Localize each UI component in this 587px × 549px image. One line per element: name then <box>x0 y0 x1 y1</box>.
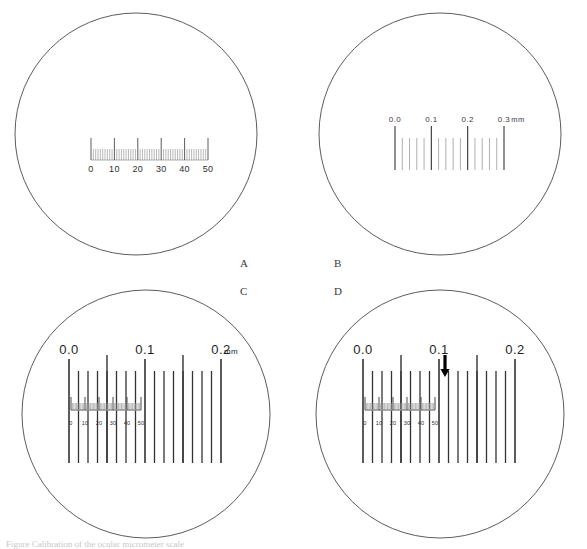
ocular-tick-label: 30 <box>404 420 411 426</box>
stage-tick-label: 0.1 <box>429 342 449 357</box>
stage-tick-label: 0.2 <box>462 115 474 124</box>
field-of-view-circle <box>319 13 561 255</box>
ocular-tick-label: 30 <box>110 420 117 426</box>
ocular-tick-label: 50 <box>138 420 145 426</box>
ocular-tick-label: 0 <box>69 420 72 426</box>
stage-tick-label: 0.0 <box>389 115 401 124</box>
stage-unit-label: mm <box>224 347 238 356</box>
ocular-tick-label: 0 <box>88 164 93 174</box>
ocular-tick-label: 10 <box>376 420 383 426</box>
ocular-tick-label: 10 <box>109 164 120 174</box>
ocular-micrometer-scale: 01020304050 <box>88 138 213 174</box>
figure-root: 010203040500.00.10.20.3mm0.00.10.2mm0102… <box>0 0 587 549</box>
stage-tick-label: 0.0 <box>353 342 373 357</box>
ocular-tick-label: 0 <box>363 420 366 426</box>
ocular-tick-label: 40 <box>418 420 425 426</box>
panel-d: 0.00.10.201020304050 <box>316 290 564 538</box>
panel-label-d: D <box>334 285 342 297</box>
cut-off-caption: Figure Calibration of the ocular microme… <box>6 540 306 549</box>
field-of-view-circle <box>316 290 564 538</box>
field-of-view-circle <box>15 13 257 255</box>
ocular-tick-label: 20 <box>390 420 397 426</box>
panel-label-c: C <box>240 285 248 297</box>
ocular-tick-label: 10 <box>82 420 89 426</box>
ocular-tick-label: 40 <box>124 420 131 426</box>
micrometer-calibration-figure: 010203040500.00.10.20.3mm0.00.10.2mm0102… <box>0 0 587 549</box>
stage-tick-label: 0.0 <box>59 342 79 357</box>
panel-a: 01020304050 <box>15 13 257 255</box>
stage-unit-label: mm <box>511 115 525 124</box>
stage-tick-label: 0.3 <box>498 115 510 124</box>
panel-b: 0.00.10.20.3mm <box>319 13 561 255</box>
ocular-tick-label: 20 <box>96 420 103 426</box>
ocular-tick-label: 50 <box>432 420 439 426</box>
stage-micrometer-scale: 0.00.10.20.3mm <box>389 115 525 170</box>
panel-label-b: B <box>334 257 342 269</box>
panel-label-a: A <box>240 257 248 269</box>
field-of-view-circle <box>22 290 270 538</box>
ocular-tick-label: 30 <box>156 164 167 174</box>
ocular-tick-label: 20 <box>132 164 143 174</box>
stage-tick-label: 0.2 <box>505 342 525 357</box>
stage-tick-label: 0.1 <box>425 115 437 124</box>
ocular-tick-label: 50 <box>203 164 214 174</box>
stage-micrometer-scale: 0.00.10.2mm <box>59 342 238 463</box>
ocular-tick-label: 40 <box>179 164 190 174</box>
stage-tick-label: 0.1 <box>135 342 155 357</box>
panel-c: 0.00.10.2mm01020304050 <box>22 290 270 538</box>
